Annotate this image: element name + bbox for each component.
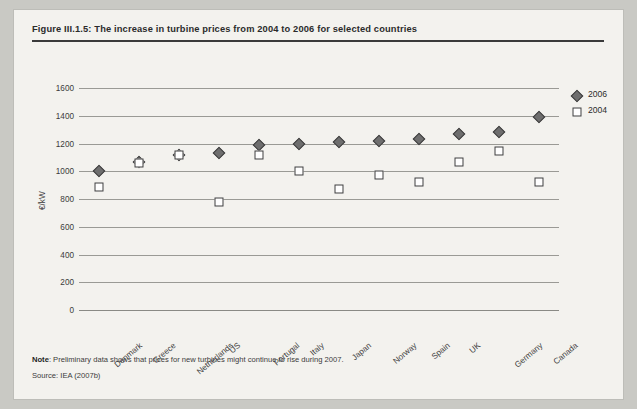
data-point-2006-us (213, 147, 226, 160)
gridline-600 (79, 227, 559, 228)
data-point-2006-germany (493, 125, 506, 138)
source-text: Source: IEA (2007b) (32, 371, 604, 380)
data-point-2004-italy (295, 167, 304, 176)
data-point-2004-uk (455, 158, 464, 167)
gridline-1600 (79, 88, 559, 89)
legend-label-2004: 2004 (588, 105, 607, 115)
y-tick-label-1600: 1600 (56, 84, 74, 93)
plot-region: 02004006008001000120014001600DenmarkGree… (79, 88, 559, 310)
y-tick-label-800: 800 (60, 195, 74, 204)
y-tick-label-400: 400 (60, 250, 74, 259)
diamond-icon (571, 90, 584, 103)
chart-legend: 20062004 (573, 88, 633, 120)
data-point-2006-canada (533, 111, 546, 124)
note-text: Note: Preliminary data shows that prices… (32, 355, 604, 364)
data-point-2004-canada (535, 178, 544, 187)
y-tick-label-0: 0 (69, 306, 74, 315)
figure-footer: Note: Preliminary data shows that prices… (32, 355, 604, 380)
gridline-200 (79, 282, 559, 283)
y-tick-label-1400: 1400 (56, 111, 74, 120)
y-tick-label-1000: 1000 (56, 167, 74, 176)
title-block: Figure III.1.5: The increase in turbine … (32, 24, 604, 42)
gridline-800 (79, 199, 559, 200)
data-point-2004-spain (415, 177, 424, 186)
chart-area: €/kW 02004006008001000120014001600Denmar… (32, 60, 604, 348)
gridline-1000 (79, 171, 559, 172)
data-point-2006-japan (333, 136, 346, 149)
gridline-1400 (79, 116, 559, 117)
data-point-2004-japan (335, 185, 344, 194)
gridline-400 (79, 255, 559, 256)
data-point-2004-us (215, 197, 224, 206)
legend-item-2006: 2006 (573, 88, 633, 104)
y-tick-label-200: 200 (60, 278, 74, 287)
data-point-2004-netherlands (175, 150, 184, 159)
y-tick-label-1200: 1200 (56, 139, 74, 148)
title-divider (32, 40, 604, 42)
y-tick-label-600: 600 (60, 222, 74, 231)
note-body: : Preliminary data shows that prices for… (49, 355, 344, 364)
page-title: Figure III.1.5: The increase in turbine … (32, 24, 604, 34)
data-point-2004-portugal (255, 150, 264, 159)
note-label: Note (32, 355, 49, 364)
x-tick-label-uk: UK (468, 341, 482, 355)
data-point-2004-denmark (95, 182, 104, 191)
data-point-2006-norway (373, 135, 386, 148)
data-point-2006-uk (453, 128, 466, 141)
figure-panel: Figure III.1.5: The increase in turbine … (14, 10, 623, 399)
page-background: Figure III.1.5: The increase in turbine … (0, 0, 637, 409)
data-point-2004-germany (495, 147, 504, 156)
gridline-1200 (79, 144, 559, 145)
data-point-2006-denmark (93, 165, 106, 178)
data-point-2004-greece (135, 158, 144, 167)
y-axis-label: €/kW (38, 191, 47, 210)
legend-label-2006: 2006 (588, 89, 607, 99)
gridline-0 (79, 310, 559, 311)
legend-item-2004: 2004 (573, 104, 633, 120)
data-point-2006-italy (293, 138, 306, 151)
data-point-2004-norway (375, 170, 384, 179)
square-icon (573, 108, 582, 117)
